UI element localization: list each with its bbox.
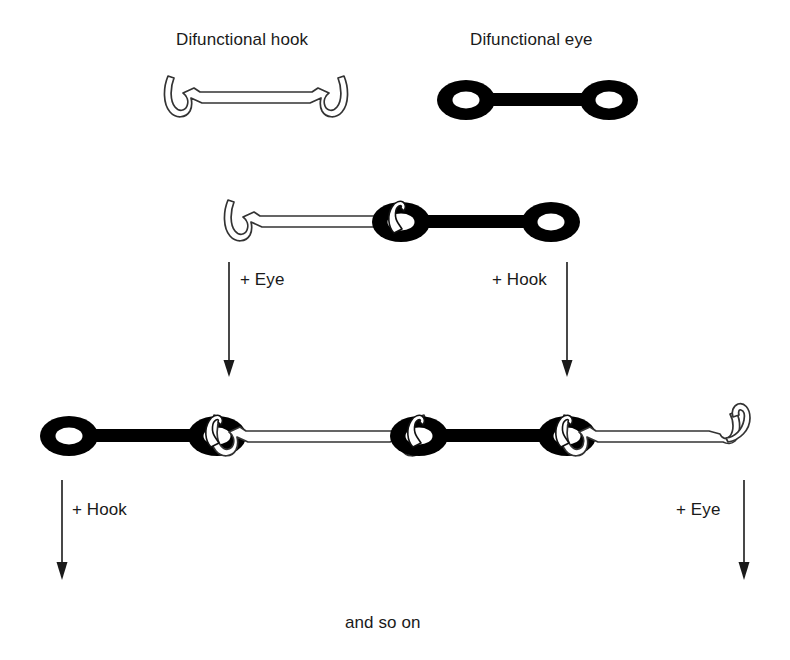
eye-monomer-hole-left	[453, 92, 480, 109]
chain-tetramer	[40, 404, 750, 456]
monomer-difunctional-hook	[164, 76, 347, 117]
dimer-eye-hole-right	[538, 214, 565, 231]
dimer-hook-unit	[224, 200, 392, 241]
eye-monomer-hole-right	[596, 92, 623, 109]
monomer-difunctional-eye	[437, 80, 638, 120]
arrow-add-eye-1	[224, 262, 235, 377]
chain-dimer	[224, 200, 580, 242]
chain-eye1-hole-free	[56, 428, 83, 445]
arrow-add-hook-1	[562, 262, 573, 377]
diagram-canvas: Difunctional hook Difunctional eye + Eye…	[0, 0, 790, 660]
arrow-add-hook-2	[57, 480, 68, 580]
arrow-add-eye-2	[739, 480, 750, 580]
diagram-artwork	[0, 0, 790, 660]
hook-monomer-body	[164, 76, 347, 117]
